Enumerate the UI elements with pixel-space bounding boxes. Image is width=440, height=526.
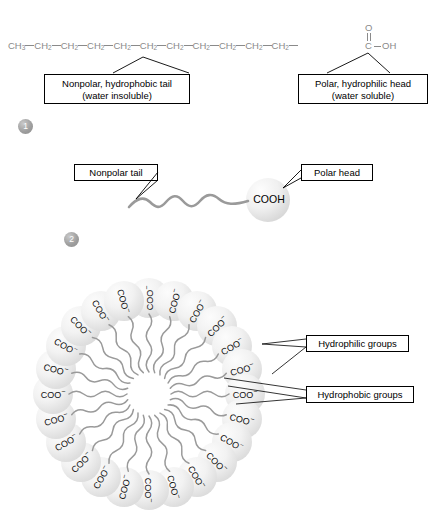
leader-line-polar-head xyxy=(327,53,390,73)
step-badge-1: 1 xyxy=(18,119,33,134)
micelle-tail xyxy=(69,391,127,397)
micelle-tail xyxy=(127,415,144,471)
leader-line-nonpolar-tail xyxy=(113,57,189,73)
fatty-acid-tail xyxy=(129,195,248,207)
step-badge-2: 2 xyxy=(64,232,79,247)
micelle-tail xyxy=(154,317,171,373)
leader-line-hydrophobic-groups xyxy=(224,378,306,404)
leader-line-nonpolar-tail-2 xyxy=(136,172,158,199)
micelle-tail xyxy=(92,337,133,378)
micelle-tail xyxy=(92,410,133,451)
micelle-tail xyxy=(146,416,152,474)
leader-line-hydrophilic-groups xyxy=(262,339,306,374)
leader-line-polar-head-2 xyxy=(283,170,301,188)
micelle-tail xyxy=(171,391,229,397)
micelle-tail xyxy=(146,314,152,372)
micelle-tail xyxy=(165,337,206,378)
vector-overlay xyxy=(0,0,440,526)
micelle-tail xyxy=(72,372,128,389)
micelle-tail xyxy=(165,410,206,451)
figure-canvas: CH3CH2CH2CH2CH2CH2CH2CH2CH2CH2CH2 O C OH… xyxy=(0,0,440,526)
micelle-tails xyxy=(69,314,229,474)
micelle-tail xyxy=(170,399,226,416)
